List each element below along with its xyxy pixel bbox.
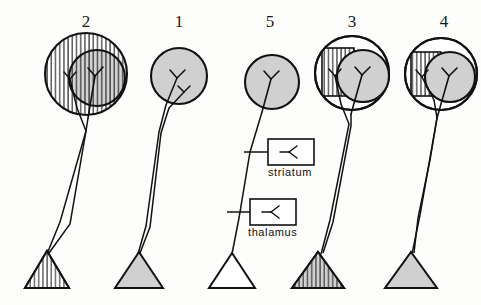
- col-4-inner-circle: [425, 52, 475, 102]
- col-4-axon-a: [412, 100, 437, 254]
- diagram-svg: [0, 0, 481, 305]
- column-label-2: 2: [71, 12, 101, 32]
- terminal-5: [209, 253, 255, 288]
- thalamus-label: thalamus: [248, 226, 297, 238]
- column-label-1: 1: [164, 12, 194, 32]
- col-3-inner-circle: [337, 50, 389, 102]
- column-2-group: [25, 33, 127, 289]
- column-4-group: [385, 38, 477, 288]
- col-5-circle: [245, 55, 299, 109]
- terminal-2: [25, 251, 71, 289]
- column-label-4: 4: [429, 12, 459, 32]
- figure-canvas: 2 1 5 3 4 striatum thalamus: [0, 0, 481, 305]
- col-1-axon-a: [138, 105, 166, 254]
- thalamus-legend-box: [250, 199, 296, 225]
- col-2-inner-circle: [69, 50, 125, 106]
- column-1-group: [115, 48, 207, 288]
- col-3-axon-a: [321, 104, 349, 254]
- terminal-1: [115, 252, 163, 288]
- column-label-3: 3: [337, 12, 367, 32]
- striatum-label: striatum: [268, 166, 312, 178]
- column-label-5: 5: [255, 12, 285, 32]
- terminal-3: [292, 252, 345, 289]
- terminal-4: [385, 252, 437, 288]
- striatum-legend-box: [268, 139, 314, 165]
- col-2-axon-a: [47, 108, 86, 254]
